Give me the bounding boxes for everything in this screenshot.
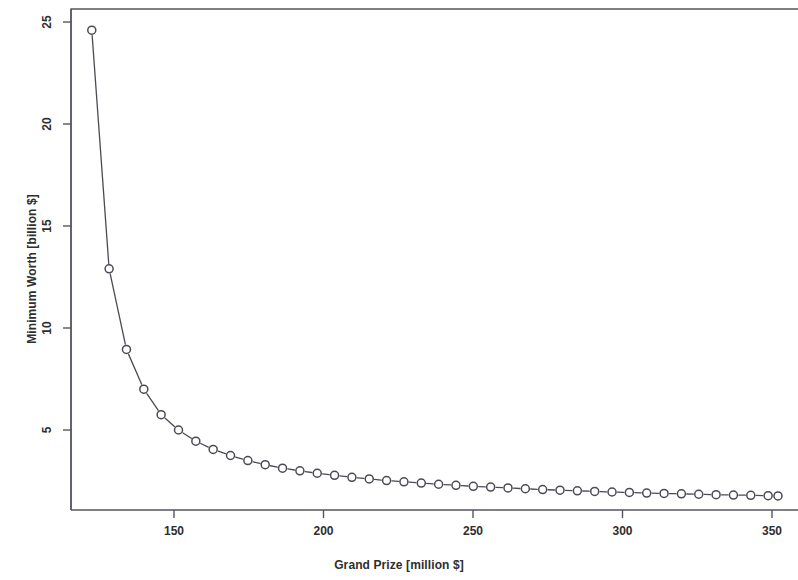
data-point-marker [348,473,356,481]
data-point-marker [677,490,685,498]
data-point-marker [695,490,703,498]
data-line-segment [110,274,125,344]
data-point-marker [192,437,200,445]
data-point-marker [313,469,321,477]
data-point-marker [625,488,633,496]
plot-frame [71,9,798,510]
data-point-marker [643,489,651,497]
data-line-segment [305,472,312,473]
data-point-marker [487,483,495,491]
data-line-segment [253,462,260,464]
data-line-segment [340,476,347,477]
data-line-segment [323,474,330,475]
data-point-marker [608,488,616,496]
data-point-marker [435,480,443,488]
data-point-marker [591,487,599,495]
data-point-marker [227,452,235,460]
data-point-marker [556,486,564,494]
y-axis-tick-label: 10 [40,321,54,334]
data-point-marker [140,385,148,393]
data-line-segment [288,469,295,470]
chart-figure: Grand Prize [million $] Minimum Worth [b… [0,0,798,580]
x-axis-tick-label: 300 [612,524,632,538]
x-axis-tick-label: 150 [164,524,184,538]
data-point-marker [383,477,391,485]
data-point-marker [712,491,720,499]
data-line-segment [236,457,243,459]
data-point-marker [469,482,477,490]
data-line-segment [183,433,191,438]
data-point-marker [521,485,529,493]
y-axis-tick-label: 5 [40,427,54,434]
data-point-marker [504,484,512,492]
data-point-marker [573,487,581,495]
data-series [88,26,782,500]
data-point-marker [400,478,408,486]
data-line-segment [375,479,382,480]
data-line-segment [129,354,142,384]
data-line-segment [201,444,209,448]
data-point-marker [417,479,425,487]
y-axis-tick-label: 20 [40,117,54,130]
data-point-marker [365,475,373,483]
data-point-marker [157,411,165,419]
data-point-marker [729,491,737,499]
x-axis-tick-label: 350 [762,524,782,538]
data-point-marker [105,265,113,273]
data-line-segment [218,451,225,454]
x-axis-tick-label: 250 [463,524,483,538]
data-line-segment [147,394,158,411]
data-line-segment [165,418,174,426]
data-line-segment [92,36,109,264]
data-point-marker [539,486,547,494]
data-point-marker [244,457,252,465]
y-axis-tick-label: 15 [40,219,54,232]
x-axis-title: Grand Prize [million $] [0,558,798,572]
y-axis-title: Minimum Worth [billion $] [25,119,39,419]
data-line-segment [357,478,364,479]
data-point-marker [122,345,130,353]
data-line-segment [270,466,277,467]
data-point-marker [296,467,304,475]
data-point-marker [174,426,182,434]
plot-area [0,0,798,580]
data-point-marker [261,461,269,469]
data-point-marker [747,491,755,499]
y-axis-tick-label: 25 [40,15,54,28]
data-point-marker [452,481,460,489]
data-point-marker [764,492,772,500]
data-point-marker [774,492,782,500]
data-point-marker [209,445,217,453]
data-point-marker [279,464,287,472]
x-axis-tick-label: 200 [313,524,333,538]
data-point-marker [660,489,668,497]
data-point-marker [331,471,339,479]
data-point-marker [88,26,96,34]
